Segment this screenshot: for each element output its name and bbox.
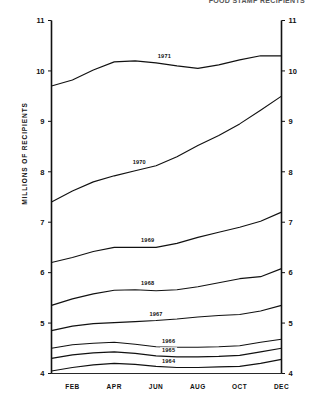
line-chart-plot: 1110987654 1110987654 FEBAPRJUNAUGOCTDEC… — [0, 0, 309, 405]
x-tick-label-feb: FEB — [65, 383, 80, 390]
y-tick-label-left-7: 7 — [40, 218, 44, 227]
series-label-1964: 1964 — [162, 358, 176, 364]
series-line-1968 — [52, 269, 282, 306]
x-tick-label-apr: APR — [107, 383, 122, 390]
x-axis-labels: FEBAPRJUNAUGOCTDEC — [65, 383, 289, 390]
series-lines — [52, 56, 282, 371]
y-tick-label-right-8: 8 — [289, 168, 293, 177]
y-tick-label-right-11: 11 — [289, 16, 297, 25]
series-label-1970: 1970 — [133, 159, 146, 165]
y-tick-label-left-5: 5 — [40, 319, 44, 328]
series-label-1968: 1968 — [141, 280, 154, 286]
y-tick-label-right-10: 10 — [289, 67, 297, 76]
series-line-1971 — [52, 56, 282, 86]
y-axis-right-labels: 1110987654 — [289, 16, 297, 378]
series-inline-labels: 19711970196919681967196619651964 — [131, 53, 177, 365]
series-line-1967 — [52, 305, 282, 330]
plot-frame — [48, 21, 285, 374]
y-tick-label-left-10: 10 — [36, 67, 44, 76]
series-label-1965: 1965 — [162, 347, 175, 353]
x-tick-label-jun: JUN — [149, 383, 164, 390]
x-tick-label-dec: DEC — [274, 383, 289, 390]
series-label-1966: 1966 — [162, 338, 175, 344]
y-tick-label-left-11: 11 — [37, 16, 45, 25]
x-tick-label-oct: OCT — [232, 383, 247, 390]
y-tick-label-right-5: 5 — [289, 319, 293, 328]
y-tick-label-left-6: 6 — [40, 268, 44, 277]
series-label-1967: 1967 — [149, 311, 162, 317]
series-line-1969 — [52, 212, 282, 262]
y-tick-label-left-4: 4 — [40, 369, 45, 378]
x-tick-label-aug: AUG — [190, 383, 206, 390]
y-tick-label-left-8: 8 — [40, 168, 44, 177]
y-tick-label-right-6: 6 — [289, 268, 293, 277]
chart-container: FOOD STAMP RECIPIENTS MILLIONS OF RECIPI… — [0, 0, 309, 405]
y-tick-label-right-4: 4 — [289, 369, 294, 378]
y-tick-label-right-9: 9 — [289, 117, 293, 126]
series-label-1971: 1971 — [158, 53, 171, 59]
series-line-1970 — [52, 96, 282, 202]
series-label-1969: 1969 — [141, 237, 154, 243]
y-axis-left-labels: 1110987654 — [36, 16, 45, 378]
y-tick-label-right-7: 7 — [289, 218, 293, 227]
y-tick-label-left-9: 9 — [40, 117, 44, 126]
